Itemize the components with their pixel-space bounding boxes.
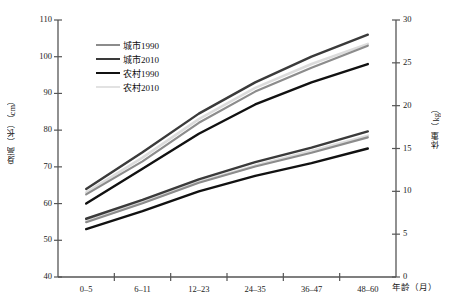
legend-label: 农村2010 [123,81,159,94]
y-tick-left: 110 [24,14,52,24]
y-tick-right: 25 [403,57,423,67]
x-tick-label: 6–11 [115,284,171,294]
legend-item: 城市2010 [96,52,159,66]
legend-label: 城市2010 [123,53,159,66]
chart-root: 身高（长）（cm） 体重（kg） 城市1990 城市2010 农村1990 农村… [0,0,452,298]
y-tick-right: 10 [403,185,423,195]
y-tick-right: 30 [403,14,423,24]
x-tick-label: 36–47 [284,284,340,294]
chart-legend: 城市1990 城市2010 农村1990 农村2010 [96,38,159,94]
y-tick-left: 60 [24,198,52,208]
plot-area [0,0,452,298]
y-tick-right: 15 [403,143,423,153]
legend-item: 农村2010 [96,80,159,94]
x-tick-label: 48–60 [340,284,396,294]
legend-label: 农村1990 [123,67,159,80]
legend-swatch-icon [96,44,120,46]
legend-item: 农村1990 [96,66,159,80]
legend-swatch-icon [96,72,120,74]
x-axis-title: 年龄（月） [392,280,437,292]
y-tick-left: 80 [24,124,52,134]
chart-svg [0,0,452,298]
x-tick-label: 0–5 [58,284,114,294]
y-tick-left: 70 [24,161,52,171]
y-tick-left: 40 [24,271,52,281]
legend-item: 城市1990 [96,38,159,52]
y-tick-left: 100 [24,51,52,61]
x-tick-label: 12–23 [171,284,227,294]
legend-label: 城市1990 [123,39,159,52]
y-tick-right: 5 [403,228,423,238]
legend-swatch-icon [96,58,120,60]
y-tick-right: 20 [403,100,423,110]
y-tick-left: 90 [24,87,52,97]
x-tick-label: 24–35 [227,284,283,294]
legend-swatch-icon [96,86,120,88]
y-tick-left: 50 [24,234,52,244]
